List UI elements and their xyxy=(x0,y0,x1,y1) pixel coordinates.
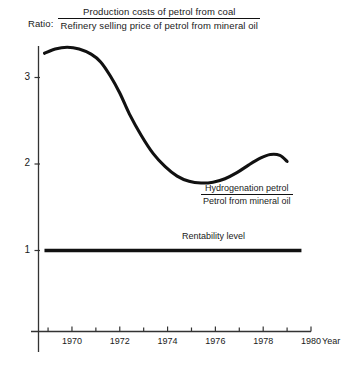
rentability-level-label: Rentability level xyxy=(182,231,245,241)
chart-figure: Ratio: Production costs of petrol from c… xyxy=(0,0,355,367)
series-annotation-denominator: Petrol from mineral oil xyxy=(201,195,293,206)
x-tick-label-1978: 1978 xyxy=(246,336,280,346)
series-annotation-hydrogenation: Hydrogenation petrol Petrol from mineral… xyxy=(201,183,293,206)
hydrogenation-ratio-curve xyxy=(44,47,287,183)
y-tick-label-2: 2 xyxy=(14,157,30,168)
x-axis-ticks xyxy=(48,327,311,332)
x-tick-label-1972: 1972 xyxy=(103,336,137,346)
plot-area xyxy=(0,0,355,367)
y-tick-label-3: 3 xyxy=(14,71,30,82)
x-tick-label-1974: 1974 xyxy=(151,336,185,346)
y-axis-ticks xyxy=(35,78,41,251)
y-tick-label-1: 1 xyxy=(14,244,30,255)
x-tick-label-1970: 1970 xyxy=(55,336,89,346)
series-annotation-numerator: Hydrogenation petrol xyxy=(201,183,293,194)
x-tick-label-1976: 1976 xyxy=(198,336,232,346)
x-axis-label: Year xyxy=(322,336,340,346)
